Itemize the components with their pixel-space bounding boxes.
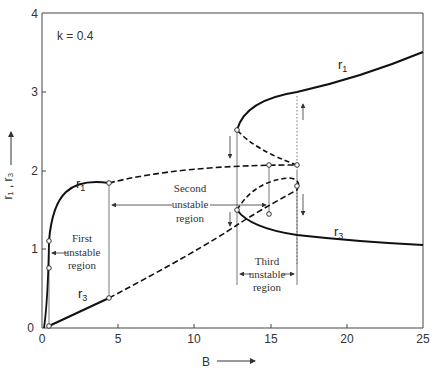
x-axis-ticks: 0 5 10 15 20 25 [39,324,430,346]
x-tick-15: 15 [264,332,278,346]
y-tick-3: 3 [31,85,38,99]
svg-text:region: region [68,259,97,271]
curves [44,52,423,328]
r3-upper-label: r3 [334,224,343,241]
svg-text:unstable: unstable [249,268,286,280]
y-tick-2: 2 [31,164,38,178]
plot-frame [42,13,423,328]
y-tick-4: 4 [31,7,38,21]
r1-lower-label: r1 [76,176,85,193]
x-tick-10: 10 [187,332,201,346]
svg-text:region: region [176,212,205,224]
parameter-label: k = 0.4 [57,29,94,43]
r1-fold-unstable [237,130,297,165]
second-unstable-label: Second unstable region [172,182,209,224]
r1-upper-label: r1 [338,57,347,74]
svg-text:unstable: unstable [64,246,101,258]
svg-text:First: First [72,232,92,244]
svg-text:unstable: unstable [172,198,209,210]
x-axis-label: B [202,355,210,369]
bifurcation-chart: 0 1 2 3 4 0 5 10 15 20 25 B r₁ , r₃ k = … [0,0,440,371]
first-unstable-label: First unstable region [64,232,101,271]
r-vertical-branch [44,241,49,328]
x-tick-20: 20 [340,332,354,346]
x-tick-0: 0 [39,332,46,346]
svg-text:Second: Second [174,182,207,194]
y-tick-0: 0 [27,321,34,335]
y-axis-label: r₁ , r₃ [1,172,15,199]
x-tick-25: 25 [416,332,430,346]
svg-text:region: region [253,281,282,293]
y-axis-ticks: 0 1 2 3 4 [27,7,46,335]
r3-lower-stable [49,298,109,326]
r3-lower-label: r3 [78,286,87,303]
third-unstable-label: Third unstable region [249,255,286,293]
r1-upper-stable [237,52,423,130]
y-tick-1: 1 [31,242,38,256]
svg-text:Third: Third [255,255,280,267]
r3-upper-stable [237,210,423,245]
x-tick-5: 5 [115,332,122,346]
